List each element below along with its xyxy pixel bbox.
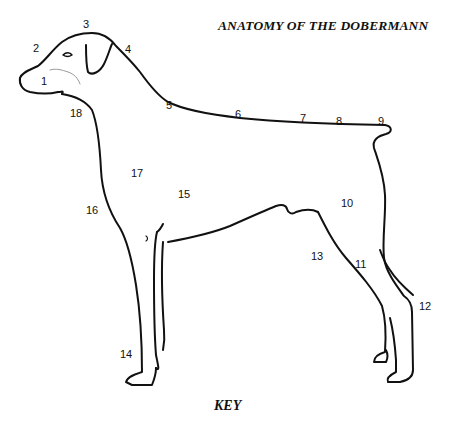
label-9: 9 bbox=[378, 116, 384, 127]
label-1: 1 bbox=[41, 76, 47, 87]
label-17: 17 bbox=[131, 168, 143, 179]
label-5: 5 bbox=[166, 100, 172, 111]
label-6: 6 bbox=[235, 109, 241, 120]
label-12: 12 bbox=[419, 301, 431, 312]
label-18: 18 bbox=[70, 108, 82, 119]
label-16: 16 bbox=[86, 205, 98, 216]
label-7: 7 bbox=[300, 113, 306, 124]
key-heading: KEY bbox=[214, 398, 241, 414]
label-11: 11 bbox=[355, 259, 366, 270]
label-8: 8 bbox=[336, 116, 342, 127]
dobermann-outline bbox=[0, 0, 463, 421]
label-10: 10 bbox=[341, 198, 353, 209]
label-4: 4 bbox=[125, 44, 131, 55]
label-15: 15 bbox=[178, 189, 190, 200]
label-2: 2 bbox=[33, 43, 39, 54]
diagram-canvas: ANATOMY OF THE DOBERMANN 1 2 3 4 5 6 7 bbox=[0, 0, 463, 421]
label-13: 13 bbox=[311, 251, 323, 262]
label-14: 14 bbox=[120, 349, 132, 360]
label-3: 3 bbox=[83, 19, 89, 30]
